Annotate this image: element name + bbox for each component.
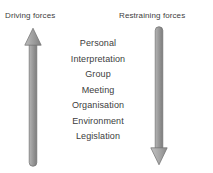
list-item: Meeting [49,83,147,99]
factor-list: Personal Interpretation Group Meeting Or… [49,36,147,145]
list-item: Organisation [49,98,147,114]
list-item: Legislation [49,129,147,145]
force-field-diagram: Driving forces Restraining forces [0,0,213,173]
list-item: Environment [49,114,147,130]
driving-forces-label: Driving forces [5,11,55,20]
driving-forces-arrow-up-icon [21,26,45,167]
restraining-forces-arrow-down-icon [147,26,171,167]
list-item: Personal [49,36,147,52]
list-item: Interpretation [49,52,147,68]
list-item: Group [49,67,147,83]
restraining-forces-label: Restraining forces [119,11,185,20]
